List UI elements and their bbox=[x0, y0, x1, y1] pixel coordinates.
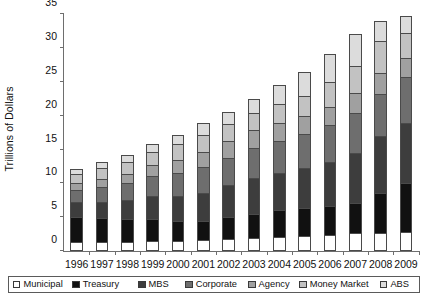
bar-segment-municipal[interactable] bbox=[70, 242, 83, 251]
bar-segment-treasury[interactable] bbox=[374, 193, 387, 233]
bar-segment-mbs[interactable] bbox=[172, 196, 185, 220]
bar-segment-money-market[interactable] bbox=[172, 144, 185, 160]
bar-segment-abs[interactable] bbox=[298, 72, 311, 96]
bar-segment-agency[interactable] bbox=[70, 183, 83, 190]
bar-segment-corporate[interactable] bbox=[374, 94, 387, 136]
bar-segment-mbs[interactable] bbox=[349, 153, 362, 203]
bar-segment-treasury[interactable] bbox=[172, 221, 185, 241]
bar-2003[interactable] bbox=[248, 99, 261, 251]
bar-segment-municipal[interactable] bbox=[248, 238, 261, 251]
bar-segment-corporate[interactable] bbox=[172, 173, 185, 196]
bar-segment-agency[interactable] bbox=[197, 152, 210, 167]
bar-segment-municipal[interactable] bbox=[298, 236, 311, 251]
bar-segment-agency[interactable] bbox=[248, 130, 261, 148]
bar-segment-corporate[interactable] bbox=[324, 125, 337, 162]
bar-2006[interactable] bbox=[324, 54, 337, 251]
bar-segment-agency[interactable] bbox=[96, 179, 109, 187]
bar-segment-municipal[interactable] bbox=[172, 241, 185, 251]
bar-2005[interactable] bbox=[298, 72, 311, 251]
bar-segment-abs[interactable] bbox=[324, 54, 337, 82]
bar-2008[interactable] bbox=[374, 21, 387, 251]
bar-segment-municipal[interactable] bbox=[146, 241, 159, 251]
bar-segment-money-market[interactable] bbox=[374, 41, 387, 72]
bar-segment-corporate[interactable] bbox=[70, 190, 83, 202]
bar-1997[interactable] bbox=[96, 162, 109, 251]
bar-segment-municipal[interactable] bbox=[222, 239, 235, 251]
bar-segment-agency[interactable] bbox=[400, 58, 413, 76]
bar-segment-municipal[interactable] bbox=[121, 242, 134, 251]
legend-item-money-market[interactable]: Money Market bbox=[298, 280, 370, 289]
bar-segment-abs[interactable] bbox=[146, 144, 159, 152]
bar-segment-treasury[interactable] bbox=[146, 219, 159, 241]
bar-segment-mbs[interactable] bbox=[273, 173, 286, 210]
bar-segment-treasury[interactable] bbox=[298, 208, 311, 236]
bar-segment-money-market[interactable] bbox=[96, 168, 109, 179]
bar-segment-mbs[interactable] bbox=[248, 178, 261, 214]
legend-item-corporate[interactable]: Corporate bbox=[182, 280, 240, 289]
bar-segment-abs[interactable] bbox=[374, 21, 387, 41]
bar-segment-agency[interactable] bbox=[222, 141, 235, 157]
bar-segment-abs[interactable] bbox=[273, 85, 286, 104]
bar-segment-municipal[interactable] bbox=[197, 240, 210, 251]
bar-segment-money-market[interactable] bbox=[298, 96, 311, 117]
bar-segment-abs[interactable] bbox=[248, 99, 261, 113]
legend-item-abs[interactable]: ABS bbox=[370, 280, 419, 289]
bar-segment-money-market[interactable] bbox=[324, 82, 337, 107]
bar-segment-treasury[interactable] bbox=[324, 206, 337, 235]
bar-segment-mbs[interactable] bbox=[197, 193, 210, 221]
bar-segment-mbs[interactable] bbox=[146, 196, 159, 218]
bar-2007[interactable] bbox=[349, 34, 362, 251]
bar-segment-treasury[interactable] bbox=[96, 218, 109, 242]
bar-1998[interactable] bbox=[121, 155, 134, 251]
bar-segment-abs[interactable] bbox=[121, 155, 134, 162]
bar-segment-municipal[interactable] bbox=[324, 235, 337, 251]
legend-item-agency[interactable]: Agency bbox=[240, 280, 298, 289]
bar-segment-agency[interactable] bbox=[172, 160, 185, 173]
bar-2000[interactable] bbox=[172, 135, 185, 251]
bar-segment-abs[interactable] bbox=[400, 16, 413, 34]
bar-segment-money-market[interactable] bbox=[70, 174, 83, 183]
bar-segment-money-market[interactable] bbox=[197, 135, 210, 153]
bar-segment-agency[interactable] bbox=[374, 73, 387, 95]
bar-segment-agency[interactable] bbox=[298, 116, 311, 134]
bar-segment-agency[interactable] bbox=[349, 93, 362, 113]
bar-segment-abs[interactable] bbox=[349, 34, 362, 66]
bar-segment-agency[interactable] bbox=[146, 165, 159, 176]
bar-segment-municipal[interactable] bbox=[374, 233, 387, 251]
bar-segment-corporate[interactable] bbox=[298, 134, 311, 168]
bar-1996[interactable] bbox=[70, 169, 83, 251]
bar-segment-corporate[interactable] bbox=[248, 148, 261, 178]
bar-segment-money-market[interactable] bbox=[146, 152, 159, 166]
bar-segment-money-market[interactable] bbox=[349, 66, 362, 94]
bar-segment-mbs[interactable] bbox=[70, 202, 83, 217]
bar-segment-agency[interactable] bbox=[324, 107, 337, 125]
bar-2002[interactable] bbox=[222, 112, 235, 251]
bar-segment-corporate[interactable] bbox=[146, 176, 159, 196]
bar-segment-treasury[interactable] bbox=[197, 221, 210, 241]
bar-segment-mbs[interactable] bbox=[298, 168, 311, 208]
bar-segment-treasury[interactable] bbox=[222, 217, 235, 239]
bar-segment-treasury[interactable] bbox=[70, 217, 83, 242]
bar-1999[interactable] bbox=[146, 144, 159, 251]
bar-segment-municipal[interactable] bbox=[400, 232, 413, 251]
legend-item-municipal[interactable]: Municipal bbox=[9, 280, 67, 289]
bar-segment-municipal[interactable] bbox=[96, 242, 109, 251]
bar-2004[interactable] bbox=[273, 85, 286, 251]
bar-segment-money-market[interactable] bbox=[248, 113, 261, 130]
bar-segment-corporate[interactable] bbox=[197, 167, 210, 193]
bar-segment-mbs[interactable] bbox=[222, 185, 235, 217]
bar-segment-treasury[interactable] bbox=[121, 219, 134, 242]
bar-segment-mbs[interactable] bbox=[121, 200, 134, 218]
bar-segment-money-market[interactable] bbox=[400, 33, 413, 58]
legend-item-mbs[interactable]: MBS bbox=[125, 280, 183, 289]
bar-segment-mbs[interactable] bbox=[96, 202, 109, 218]
bar-2009[interactable] bbox=[400, 16, 413, 251]
bar-segment-mbs[interactable] bbox=[324, 162, 337, 206]
bar-segment-corporate[interactable] bbox=[96, 187, 109, 202]
bar-segment-mbs[interactable] bbox=[400, 123, 413, 183]
bar-segment-treasury[interactable] bbox=[400, 183, 413, 232]
bar-segment-abs[interactable] bbox=[222, 112, 235, 124]
bar-segment-corporate[interactable] bbox=[349, 113, 362, 153]
bar-segment-treasury[interactable] bbox=[273, 210, 286, 237]
bar-segment-money-market[interactable] bbox=[273, 104, 286, 122]
